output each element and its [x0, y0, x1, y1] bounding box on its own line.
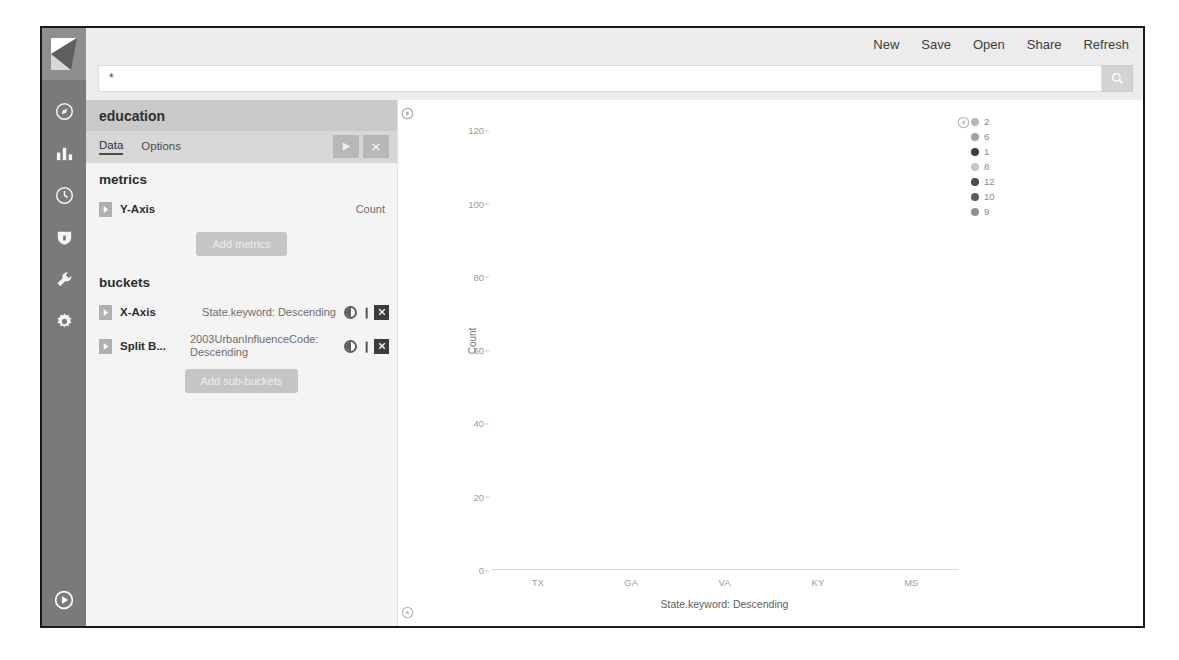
buckets-heading: buckets [86, 266, 397, 295]
legend-label: 12 [984, 176, 995, 187]
apply-changes-button[interactable] [333, 135, 359, 158]
kibana-logo[interactable] [42, 28, 86, 80]
bucket-row-split-series[interactable]: Split B... 2003UrbanInfluenceCode: Desce… [86, 329, 397, 363]
add-metrics-button[interactable]: Add metrics [196, 232, 286, 256]
vis-spy-collapse-icon[interactable] [401, 605, 414, 618]
chevron-right-icon[interactable] [99, 202, 112, 217]
top-nav-save[interactable]: Save [921, 37, 951, 52]
bar-column: GA [584, 112, 677, 570]
vis-editor-sidebar: education Data Options [86, 100, 398, 626]
editor-action-buttons [333, 135, 389, 158]
legend-color-dot [971, 178, 979, 186]
x-axis-tick-label: KY [812, 577, 825, 588]
legend-label: 6 [984, 131, 989, 142]
bar-column: TX [491, 112, 584, 570]
main-area: New Save Open Share Refresh * education [86, 28, 1143, 626]
top-nav-new[interactable]: New [873, 37, 899, 52]
y-axis-tick-label: 60 [473, 345, 484, 356]
legend-item[interactable]: 8 [971, 159, 1131, 174]
rail-collapse-button[interactable] [42, 590, 86, 610]
search-icon [1111, 72, 1124, 85]
collapse-arrow-icon [54, 590, 74, 610]
bucket-value: 2003UrbanInfluenceCode: Descending [182, 333, 340, 359]
legend-color-dot [971, 133, 979, 141]
y-axis-tick-label: 80 [473, 271, 484, 282]
tab-options[interactable]: Options [141, 140, 181, 154]
content-body: education Data Options [86, 100, 1143, 626]
y-axis-tick-label: 20 [473, 491, 484, 502]
dev-tools-shield-icon[interactable] [51, 224, 77, 250]
add-sub-buckets-button[interactable]: Add sub-buckets [185, 369, 299, 393]
chevron-right-icon[interactable] [99, 305, 112, 320]
bar-column: VA [678, 112, 771, 570]
close-icon [371, 142, 381, 152]
chart-legend: 261812109 [971, 114, 1131, 219]
close-icon [378, 308, 386, 316]
play-triangle-icon [341, 141, 352, 152]
drag-handle-icon[interactable]: ❙ [362, 306, 369, 319]
visualize-bar-chart-icon[interactable] [51, 140, 77, 166]
metric-label: Y-Axis [120, 203, 182, 215]
y-axis-tick-label: 0 [479, 565, 484, 576]
tab-data[interactable]: Data [99, 139, 123, 155]
legend-color-dot [971, 208, 979, 216]
top-nav-refresh[interactable]: Refresh [1083, 37, 1129, 52]
legend-item[interactable]: 12 [971, 174, 1131, 189]
vis-options-collapse-icon[interactable] [401, 106, 414, 119]
bar-column: KY [771, 112, 864, 570]
rail-icon-list [51, 98, 77, 334]
legend-color-dot [971, 148, 979, 156]
top-nav-bar: New Save Open Share Refresh [86, 28, 1143, 60]
remove-bucket-button[interactable] [374, 305, 389, 320]
query-bar: * [86, 60, 1143, 100]
metric-value: Count [182, 203, 389, 216]
legend-label: 8 [984, 161, 989, 172]
screenshot-root: New Save Open Share Refresh * education [0, 0, 1179, 660]
bucket-value: State.keyword: Descending [182, 306, 340, 319]
toggle-visibility-icon[interactable] [344, 306, 357, 319]
top-nav-open[interactable]: Open [973, 37, 1005, 52]
y-axis-tick-label: 40 [473, 418, 484, 429]
bucket-label: Split B... [120, 340, 182, 352]
bar-series-group: TXGAVAKYMS [491, 112, 958, 570]
search-submit-button[interactable] [1102, 65, 1133, 92]
y-axis-tick-label: 120 [468, 125, 484, 136]
legend-color-dot [971, 118, 979, 126]
legend-label: 1 [984, 146, 989, 157]
x-axis-tick-label: VA [719, 577, 731, 588]
legend-item[interactable]: 2 [971, 114, 1131, 129]
add-metrics-wrap: Add metrics [86, 226, 397, 266]
x-axis-line [491, 569, 958, 570]
top-nav-share[interactable]: Share [1027, 37, 1062, 52]
legend-item[interactable]: 9 [971, 204, 1131, 219]
x-axis-title: State.keyword: Descending [491, 598, 958, 610]
editor-tab-bar: Data Options [86, 131, 397, 163]
remove-bucket-button[interactable] [374, 339, 389, 354]
bucket-row-x-axis[interactable]: X-Axis State.keyword: Descending ❙ [86, 295, 397, 329]
drag-handle-icon[interactable]: ❙ [362, 340, 369, 353]
y-axis-ticks: 020406080100120 [453, 112, 489, 570]
legend-item[interactable]: 1 [971, 144, 1131, 159]
toggle-visibility-icon[interactable] [344, 340, 357, 353]
search-input[interactable]: * [98, 65, 1102, 92]
legend-item[interactable]: 10 [971, 189, 1131, 204]
visualization-pane: Count 020406080100120 TXGAVAKYMS State.k… [398, 100, 1143, 626]
settings-gear-icon[interactable] [51, 308, 77, 334]
chevron-right-icon[interactable] [99, 339, 112, 354]
add-sub-buckets-wrap: Add sub-buckets [86, 363, 397, 403]
legend-color-dot [971, 193, 979, 201]
legend-color-dot [971, 163, 979, 171]
bucket-controls: ❙ [340, 339, 389, 354]
close-icon [378, 342, 386, 350]
legend-item[interactable]: 6 [971, 129, 1131, 144]
chart-plot-area: Count 020406080100120 TXGAVAKYMS State.k… [453, 112, 1133, 570]
legend-toggle-icon[interactable] [957, 115, 970, 128]
timelion-clock-icon[interactable] [51, 182, 77, 208]
bar-column: MS [865, 112, 958, 570]
management-wrench-icon[interactable] [51, 266, 77, 292]
discover-icon[interactable] [51, 98, 77, 124]
y-axis-tick-label: 100 [468, 198, 484, 209]
discard-changes-button[interactable] [363, 135, 389, 158]
metric-row-y-axis[interactable]: Y-Axis Count [86, 192, 397, 226]
x-axis-tick-label: MS [904, 577, 918, 588]
